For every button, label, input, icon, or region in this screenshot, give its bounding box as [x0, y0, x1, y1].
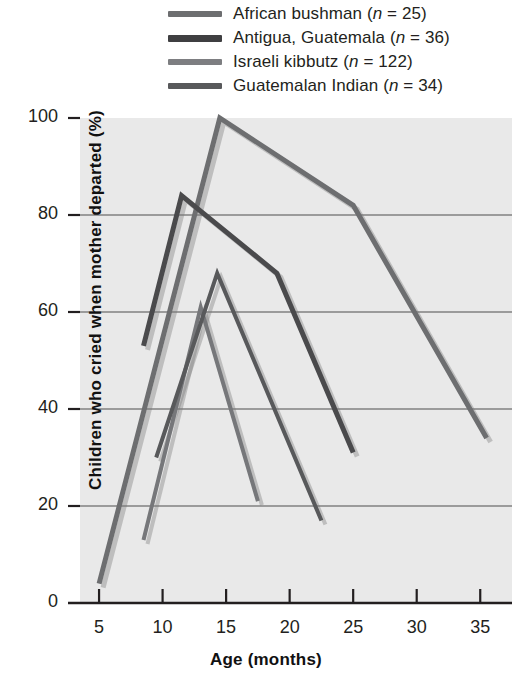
- x-tick-label: 15: [206, 617, 246, 638]
- y-tick-label: 60: [2, 300, 58, 321]
- y-tick-label: 0: [2, 591, 58, 612]
- series-shadow: [160, 277, 325, 524]
- y-tick-label: 20: [2, 494, 58, 515]
- plot-canvas: [0, 0, 532, 698]
- y-tick-label: 100: [2, 106, 58, 127]
- x-tick-label: 10: [143, 617, 183, 638]
- x-tick-label: 25: [333, 617, 373, 638]
- y-tick-label: 40: [2, 397, 58, 418]
- chart-figure: African bushman (n = 25) Antigua, Guatem…: [0, 0, 532, 698]
- series-shadow: [103, 122, 491, 588]
- axis-ticks: [68, 118, 480, 603]
- series-line-african-bushman: [99, 118, 487, 584]
- x-tick-label: 20: [270, 617, 310, 638]
- x-axis-label: Age (months): [0, 650, 532, 670]
- x-tick-label: 5: [79, 617, 119, 638]
- x-tick-label: 30: [397, 617, 437, 638]
- x-tick-label: 35: [460, 617, 500, 638]
- data-series-group: [99, 118, 491, 588]
- y-tick-label: 80: [2, 203, 58, 224]
- y-axis-label: Children who cried when mother departed …: [86, 50, 106, 550]
